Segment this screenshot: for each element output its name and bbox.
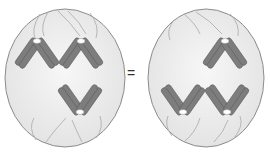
right-cell [148,9,264,147]
cell-membrane [5,9,125,147]
cell-membrane [148,9,264,147]
equals-sign: = [126,66,136,80]
left-cell [5,9,125,147]
